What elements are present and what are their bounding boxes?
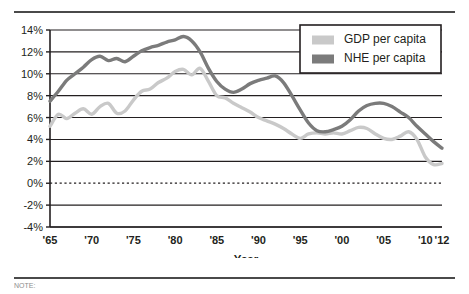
figure-note: NOTE: [14,282,455,291]
x-axis-label: '90 [251,234,266,246]
top-rule [14,11,455,13]
y-axis-label: -4% [23,221,43,233]
x-axis-label: '75 [126,234,141,246]
x-axis-title: Year [234,253,259,258]
x-axis-label: '10 [418,234,433,246]
x-axis-label: '70 [84,234,99,246]
legend-label-gdp-per-capita: GDP per capita [344,32,426,46]
y-axis-label: 12% [21,46,43,58]
x-axis-label: '12 [435,234,450,246]
x-axis-label: '80 [168,234,183,246]
y-axis-label: 4% [27,133,43,145]
y-axis-label: 10% [21,68,43,80]
legend-label-nhe-per-capita: NHE per capita [344,51,426,65]
y-axis-label: 6% [27,112,43,124]
legend-swatch-nhe-per-capita [312,55,334,64]
chart-figure: 14%12%10%8%6%4%2%0%-2%-4%'65'70'75'80'85… [0,0,469,294]
y-axis-label: 8% [27,90,43,102]
line-chart: 14%12%10%8%6%4%2%0%-2%-4%'65'70'75'80'85… [0,16,469,258]
bottom-rule [14,277,455,279]
legend-swatch-gdp-per-capita [312,36,334,45]
plot-container: 14%12%10%8%6%4%2%0%-2%-4%'65'70'75'80'85… [0,16,469,258]
y-axis-label: 14% [21,24,43,36]
x-axis-label: '00 [334,234,349,246]
x-axis-label: '05 [376,234,391,246]
x-axis-label: '85 [209,234,224,246]
y-axis-label: 0% [27,177,43,189]
x-axis-label: '95 [293,234,308,246]
x-axis-label: '65 [43,234,58,246]
series-line-gdp-per-capita [50,68,442,165]
y-axis-label: -2% [23,199,43,211]
y-axis-label: 2% [27,155,43,167]
